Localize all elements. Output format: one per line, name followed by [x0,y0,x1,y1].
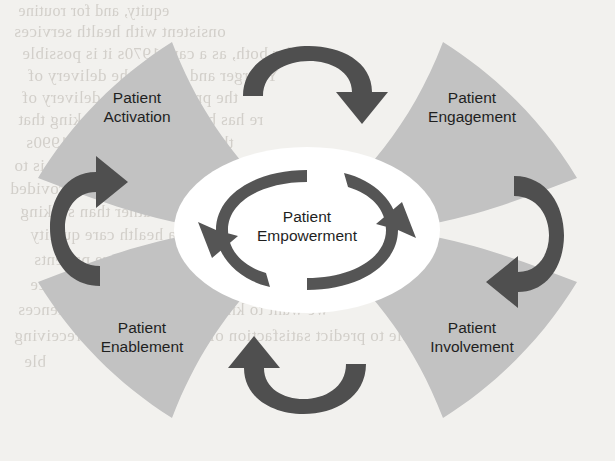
label-patient-engagement: Patient Engagement [392,88,552,126]
label-patient-activation: Patient Activation [62,88,212,126]
label-patient-enablement: Patient Enablement [62,318,222,356]
label-line-2: Enablement [62,337,222,356]
label-line-2: Activation [62,107,212,126]
label-line-1: Patient [232,207,382,226]
label-line-2: Engagement [392,107,552,126]
label-line-2: Empowerment [232,226,382,245]
label-line-1: Patient [62,88,212,107]
label-line-1: Patient [392,88,552,107]
label-line-1: Patient [392,318,552,337]
arrow-top-icon[interactable] [243,46,388,124]
label-line-2: Involvement [392,337,552,356]
diagram-stage: equity, and for routine onsistent with h… [0,0,615,461]
label-patient-empowerment: Patient Empowerment [232,207,382,245]
label-line-1: Patient [62,318,222,337]
label-patient-involvement: Patient Involvement [392,318,552,356]
arrow-bottom-icon[interactable] [228,336,366,414]
